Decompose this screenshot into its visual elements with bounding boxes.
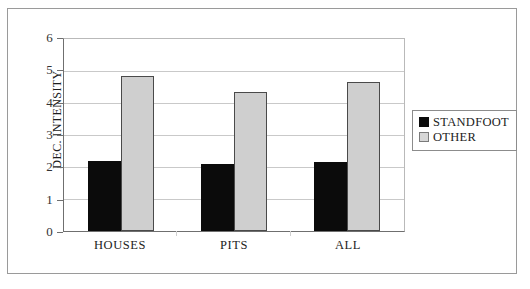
y-tick-label-3: 3 bbox=[46, 127, 53, 143]
category-separator-2 bbox=[290, 231, 291, 236]
x-label-houses: HOUSES bbox=[63, 238, 177, 253]
bar-standfoot-all bbox=[314, 162, 347, 231]
legend-label-other: OTHER bbox=[433, 130, 476, 145]
chart-legend: STANDFOOT OTHER bbox=[412, 110, 517, 151]
bar-other-houses bbox=[121, 76, 154, 231]
gray-square-icon bbox=[419, 132, 429, 142]
bar-standfoot-pits bbox=[201, 164, 234, 231]
y-tick-label-0: 0 bbox=[46, 224, 53, 240]
category-separator-1 bbox=[176, 231, 177, 236]
legend-entry-other: OTHER bbox=[419, 130, 509, 145]
x-label-pits: PITS bbox=[177, 238, 291, 253]
bar-group-houses bbox=[64, 39, 177, 231]
y-tick-label-5: 5 bbox=[46, 62, 53, 78]
bar-group-pits bbox=[177, 39, 290, 231]
legend-label-standfoot: STANDFOOT bbox=[433, 115, 509, 130]
y-tick-label-2: 2 bbox=[46, 159, 53, 175]
bar-group-all bbox=[291, 39, 404, 231]
black-square-icon bbox=[419, 117, 429, 127]
y-tick-label-1: 1 bbox=[46, 192, 53, 208]
bar-other-all bbox=[347, 82, 380, 231]
bar-standfoot-houses bbox=[88, 161, 121, 231]
y-tick-mark-0 bbox=[57, 232, 63, 233]
x-axis-labels: HOUSES PITS ALL bbox=[63, 238, 405, 262]
legend-entry-standfoot: STANDFOOT bbox=[419, 115, 509, 130]
y-axis-ticks: 6 5 4 3 2 1 0 bbox=[0, 38, 63, 232]
bar-chart-figure: DEC. INTENSITY 6 5 4 3 2 1 0 bbox=[0, 0, 530, 289]
y-tick-label-4: 4 bbox=[46, 95, 53, 111]
y-tick-label-6: 6 bbox=[46, 30, 53, 46]
x-label-all: ALL bbox=[291, 238, 405, 253]
bar-groups bbox=[64, 39, 404, 231]
bar-other-pits bbox=[234, 92, 267, 231]
plot-area bbox=[63, 38, 405, 232]
